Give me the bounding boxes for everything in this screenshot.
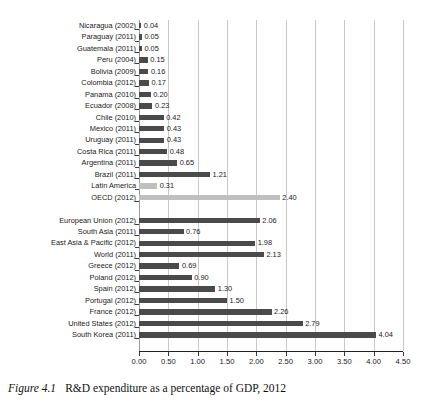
bar xyxy=(139,183,157,188)
category-label: Colombia (2012) xyxy=(81,79,136,86)
category-label: Argentina (2011) xyxy=(81,159,136,166)
category-tick xyxy=(135,41,140,42)
x-tick-3.00 xyxy=(315,352,316,356)
x-tick-4.00 xyxy=(374,352,375,356)
category-label: France (2012) xyxy=(90,308,136,315)
bar-value-label: 0.05 xyxy=(144,45,158,52)
category-tick xyxy=(135,167,140,168)
category-tick xyxy=(135,247,140,248)
bar xyxy=(139,332,376,337)
category-tick xyxy=(135,258,140,259)
x-axis-ticks xyxy=(0,352,422,357)
bar-value-label: 1.50 xyxy=(230,297,244,304)
category-label: Brazil (2011) xyxy=(95,171,136,178)
bar-value-label: 2.26 xyxy=(274,308,288,315)
x-tick-label: 1.50 xyxy=(220,358,235,366)
category-label: Latin America xyxy=(91,182,136,189)
bar xyxy=(139,218,260,223)
bar-value-label: 0.31 xyxy=(160,182,174,189)
category-tick xyxy=(135,304,140,305)
bar-value-label: 0.17 xyxy=(151,79,165,86)
x-tick-label: 3.00 xyxy=(308,358,323,366)
caption-number: Figure 4.1 xyxy=(8,382,56,394)
bar xyxy=(139,57,148,62)
bar-value-label: 0.69 xyxy=(182,262,196,269)
bar xyxy=(139,321,303,326)
category-tick xyxy=(135,155,140,156)
bar xyxy=(139,126,164,131)
bar xyxy=(139,172,210,177)
category-label: Portugal (2012) xyxy=(85,297,136,304)
category-tick xyxy=(135,86,140,87)
bar-value-label: 0.43 xyxy=(167,136,181,143)
category-label: Uruguay (2011) xyxy=(85,136,136,143)
bar xyxy=(139,286,215,291)
category-tick xyxy=(135,292,140,293)
category-tick xyxy=(135,109,140,110)
category-label: Greece (2012) xyxy=(88,262,136,269)
bar xyxy=(139,34,142,39)
bar-value-label: 0.65 xyxy=(180,159,194,166)
category-label: Paraguay (2011) xyxy=(81,33,136,40)
x-tick-label: 0.50 xyxy=(161,358,176,366)
x-tick-4.50 xyxy=(403,352,404,356)
bar xyxy=(139,115,164,120)
category-tick xyxy=(135,281,140,282)
bar xyxy=(139,69,148,74)
bar-value-label: 0.90 xyxy=(194,274,208,281)
category-tick xyxy=(135,132,140,133)
category-tick xyxy=(135,235,140,236)
x-tick-2.50 xyxy=(286,352,287,356)
category-label: Mexico (2011) xyxy=(90,125,136,132)
bar xyxy=(139,252,264,257)
x-tick-label: 4.00 xyxy=(366,358,381,366)
category-label: Ecuador (2008) xyxy=(85,102,136,109)
bar xyxy=(139,92,151,97)
bar-value-label: 0.48 xyxy=(170,148,184,155)
category-label: Panama (2010) xyxy=(85,91,136,98)
bar-value-label: 0.42 xyxy=(166,114,180,121)
x-tick-1.50 xyxy=(227,352,228,356)
category-label: European Union (2012) xyxy=(59,217,136,224)
bar-value-label: 0.16 xyxy=(151,68,165,75)
figure-caption: Figure 4.1R&D expenditure as a percentag… xyxy=(8,382,418,396)
x-tick-label: 4.50 xyxy=(396,358,411,366)
category-label: World (2011) xyxy=(94,251,136,258)
category-tick xyxy=(135,29,140,30)
bar-value-label: 2.79 xyxy=(305,320,319,327)
category-label: Chile (2010) xyxy=(96,114,136,121)
x-tick-label: 2.00 xyxy=(249,358,264,366)
bar-value-label: 1.21 xyxy=(212,171,226,178)
bar xyxy=(139,241,255,246)
category-label: Guatemala (2011) xyxy=(77,45,136,52)
category-label: Poland (2012) xyxy=(90,274,136,281)
figure-container: Nicaragua (2002)0.04Paraguay (2011)0.05G… xyxy=(0,0,422,404)
category-tick xyxy=(135,98,140,99)
category-label: Bolivia (2009) xyxy=(91,68,136,75)
bar-rows: Nicaragua (2002)0.04Paraguay (2011)0.05G… xyxy=(0,20,422,352)
bar xyxy=(139,149,167,154)
caption-text: R&D expenditure as a percentage of GDP, … xyxy=(65,382,286,394)
category-label: OECD (2012) xyxy=(91,194,136,201)
category-tick xyxy=(135,201,140,202)
category-label: East Asia & Pacific (2012) xyxy=(51,239,136,246)
category-tick xyxy=(135,315,140,316)
category-label: Nicaragua (2002) xyxy=(79,22,136,29)
x-tick-label: 3.50 xyxy=(337,358,352,366)
bar xyxy=(139,160,177,165)
bar-value-label: 0.05 xyxy=(144,33,158,40)
bar-value-label: 0.43 xyxy=(167,125,181,132)
category-label: South Asia (2011) xyxy=(78,228,136,235)
bar-value-label: 0.04 xyxy=(144,22,158,29)
x-tick-label: 1.00 xyxy=(190,358,205,366)
category-label: United States (2012) xyxy=(68,320,136,327)
category-label: Peru (2004) xyxy=(97,56,136,63)
bar-value-label: 1.30 xyxy=(218,285,232,292)
bar-value-label: 0.23 xyxy=(155,102,169,109)
bar xyxy=(139,46,142,51)
category-tick xyxy=(135,52,140,53)
bar-value-label: 4.04 xyxy=(379,331,393,338)
category-tick xyxy=(135,338,140,339)
bar xyxy=(139,263,179,268)
x-tick-label: 0.00 xyxy=(132,358,147,366)
